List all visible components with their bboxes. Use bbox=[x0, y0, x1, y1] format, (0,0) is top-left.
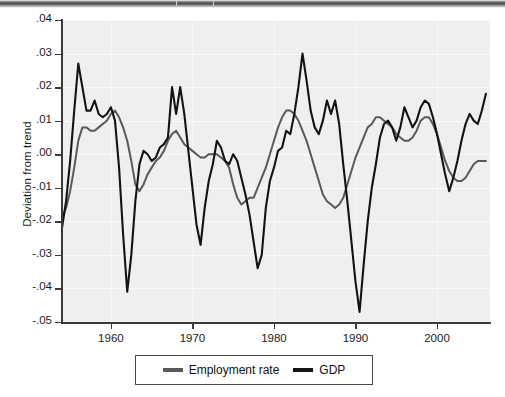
y-axis-tick bbox=[55, 188, 62, 189]
y-axis-tick-label: .03 bbox=[0, 46, 52, 58]
x-axis-tick-label: 1970 bbox=[162, 332, 222, 344]
y-axis-tick-label: -.02 bbox=[0, 213, 52, 225]
legend-label-employment-rate: Employment rate bbox=[189, 363, 280, 377]
y-axis-tick bbox=[55, 121, 62, 122]
x-axis-tick-label: 2000 bbox=[407, 332, 467, 344]
legend-swatch-employment-rate bbox=[163, 368, 183, 371]
y-axis-tick bbox=[55, 288, 62, 289]
x-axis-tick bbox=[111, 322, 112, 329]
legend-entry-gdp: GDP bbox=[293, 363, 345, 377]
chart-legend: Employment rate GDP bbox=[135, 355, 373, 385]
series-layer bbox=[62, 20, 490, 322]
y-axis-tick bbox=[55, 54, 62, 55]
y-axis-tick-label: -.01 bbox=[0, 180, 52, 192]
series-line-gdp bbox=[62, 54, 486, 312]
x-axis-tick-label: 1960 bbox=[81, 332, 141, 344]
x-axis-tick-label: 1990 bbox=[325, 332, 385, 344]
y-axis-tick bbox=[55, 322, 62, 323]
x-axis-tick bbox=[437, 322, 438, 329]
x-axis-line bbox=[61, 322, 491, 324]
y-axis-tick-label: -.04 bbox=[0, 280, 52, 292]
y-axis-tick bbox=[55, 221, 62, 222]
legend-entry-employment-rate: Employment rate bbox=[163, 363, 280, 377]
y-axis-tick bbox=[55, 255, 62, 256]
plot-area bbox=[62, 20, 490, 322]
y-axis-tick-label: .02 bbox=[0, 79, 52, 91]
y-axis-tick-label: -.05 bbox=[0, 314, 52, 326]
y-axis-tick-label: .04 bbox=[0, 12, 52, 24]
chart-figure: Deviation from trend .04.03.02.01.00-.01… bbox=[0, 0, 505, 397]
y-axis-tick-label: .01 bbox=[0, 113, 52, 125]
y-axis-tick bbox=[55, 154, 62, 155]
y-axis-line bbox=[61, 19, 63, 323]
y-axis-tick bbox=[55, 20, 62, 21]
x-axis-tick bbox=[355, 322, 356, 329]
y-axis-tick-label: -.03 bbox=[0, 247, 52, 259]
y-axis-tick-label: .00 bbox=[0, 146, 52, 158]
legend-label-gdp: GDP bbox=[319, 363, 345, 377]
x-axis-tick bbox=[192, 322, 193, 329]
y-axis-tick bbox=[55, 87, 62, 88]
legend-swatch-gdp bbox=[293, 368, 313, 371]
x-axis-tick-label: 1980 bbox=[244, 332, 304, 344]
x-axis-tick bbox=[274, 322, 275, 329]
